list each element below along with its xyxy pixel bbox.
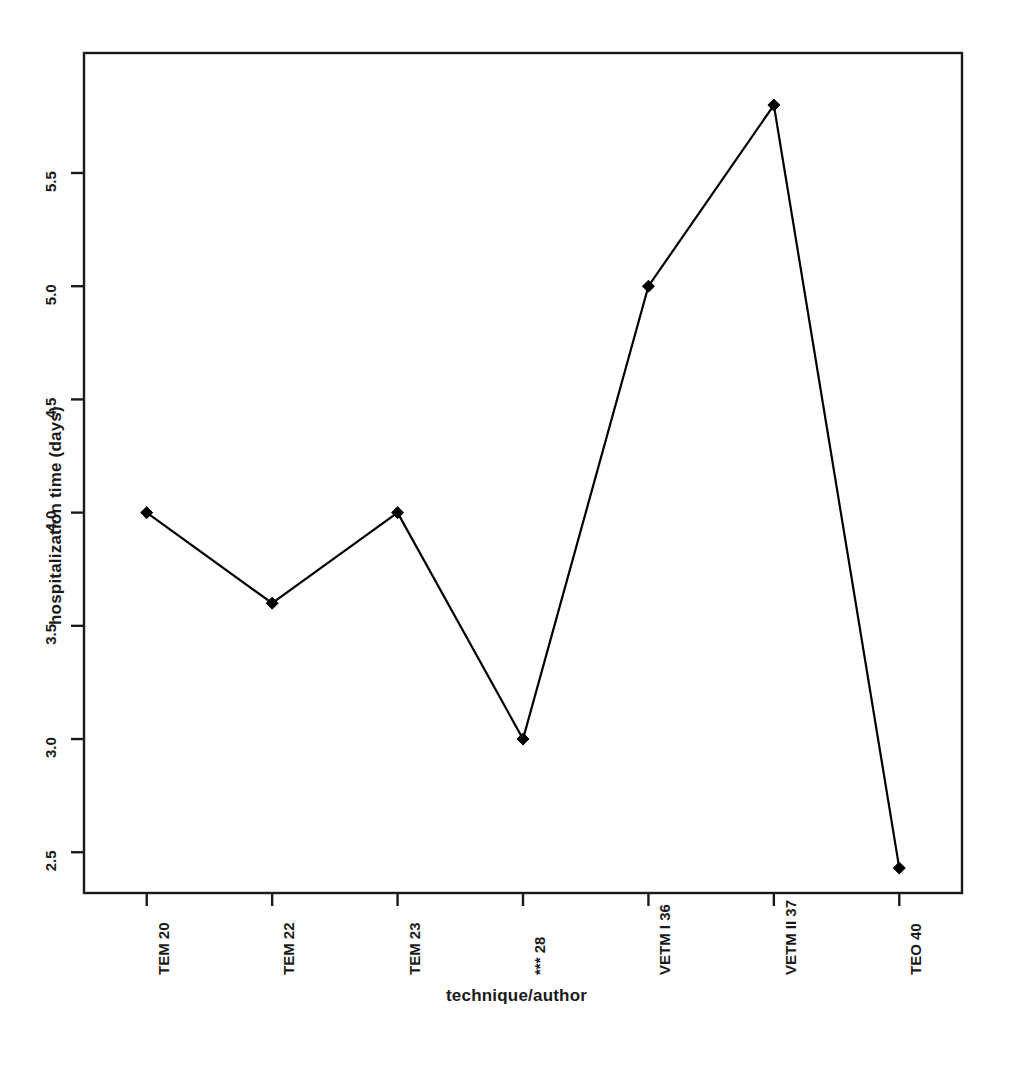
x-axis-tick-label: TEM 20 [155,922,172,975]
x-axis-tick-label: VETM II 37 [782,900,799,975]
data-point-marker [517,733,529,745]
y-axis-tick-label: 4.5 [42,398,59,419]
y-axis-tick-label: 2.5 [42,850,59,871]
x-axis-tick-label: VETM I 36 [656,904,673,975]
x-axis-title: technique/author [446,986,587,1006]
data-line [147,105,900,868]
chart-figure: hospitalization time (days) technique/au… [0,0,1009,1068]
y-axis-tick-label: 3.5 [42,624,59,645]
plot-frame [84,53,962,893]
y-axis-tick-label: 5.5 [42,171,59,192]
data-point-marker [893,862,905,874]
x-axis-tick-label: TEM 23 [406,922,423,975]
line-chart-plot [0,0,1009,1068]
x-axis-tick-label: TEM 22 [280,922,297,975]
y-axis-tick-label: 5.0 [42,284,59,305]
y-axis-tick-label: 4.0 [42,511,59,532]
x-axis-tick-label: *** 28 [531,937,548,975]
x-axis-tick-label: TEO 40 [907,923,924,975]
y-axis-tick-label: 3.0 [42,737,59,758]
